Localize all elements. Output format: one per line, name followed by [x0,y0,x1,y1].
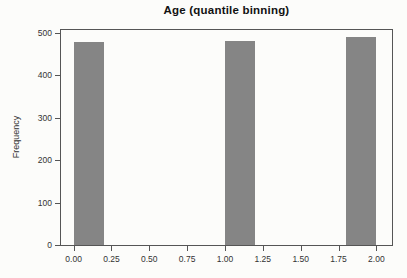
x-tick-mark [149,246,150,251]
x-tick-mark [376,246,377,251]
y-axis-label: Frequency [11,77,23,197]
y-tick-label: 400 [16,70,52,80]
y-tick-mark [55,203,60,204]
histogram-bar [74,42,104,245]
plot-area [60,29,393,246]
x-tick-mark [111,246,112,251]
y-tick-mark [55,33,60,34]
y-tick-mark [55,245,60,246]
x-tick-mark [74,246,75,251]
histogram-bar [225,41,255,245]
histogram-figure: Age (quantile binning) Frequency 0.000.2… [0,0,407,278]
x-tick-label: 0.50 [129,254,169,264]
x-tick-mark [225,246,226,251]
x-tick-label: 0.25 [91,254,131,264]
x-tick-mark [263,246,264,251]
x-tick-label: 1.75 [319,254,359,264]
histogram-bar [346,37,376,245]
x-tick-mark [187,246,188,251]
chart-title: Age (quantile binning) [60,4,393,16]
y-tick-mark [55,75,60,76]
y-tick-label: 100 [16,198,52,208]
x-tick-label: 2.00 [356,254,396,264]
y-tick-mark [55,160,60,161]
x-tick-label: 0.75 [167,254,207,264]
y-tick-label: 500 [16,28,52,38]
x-tick-label: 1.25 [243,254,283,264]
y-tick-label: 200 [16,155,52,165]
y-tick-mark [55,118,60,119]
x-tick-mark [301,246,302,251]
x-tick-mark [339,246,340,251]
x-tick-label: 0.00 [54,254,94,264]
x-tick-label: 1.50 [281,254,321,264]
y-tick-label: 0 [16,240,52,250]
x-tick-label: 1.00 [205,254,245,264]
y-tick-label: 300 [16,113,52,123]
